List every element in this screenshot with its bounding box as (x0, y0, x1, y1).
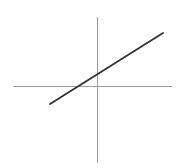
plot-canvas (0, 0, 181, 168)
line-graph-figure (0, 0, 181, 168)
figure-background (0, 0, 181, 168)
